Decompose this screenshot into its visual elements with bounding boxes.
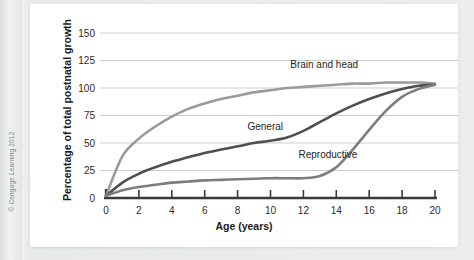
x-axis-tick-label: 18 (397, 205, 409, 216)
y-axis-tick-label: 125 (78, 55, 95, 66)
y-axis-tick-label: 100 (78, 83, 95, 94)
y-axis-tick-label: 150 (78, 28, 95, 39)
chart-container: Percentage of total postnatal growth Age… (30, 4, 458, 247)
y-axis-tick-label: 75 (84, 110, 96, 121)
x-axis-tick-label: 12 (298, 205, 310, 216)
x-axis-tick-label: 20 (429, 205, 441, 216)
x-axis-tick-label: 16 (364, 205, 376, 216)
series-label-brain-and-head: Brain and head (290, 59, 358, 70)
chart-plot: 025507510012515002468101214161820Brain a… (30, 4, 458, 247)
y-axis-tick-label: 0 (89, 193, 95, 204)
x-axis-tick-label: 0 (103, 205, 109, 216)
x-axis-tick-label: 8 (235, 205, 241, 216)
series-label-general: General (247, 121, 283, 132)
y-axis-tick-label: 50 (84, 138, 96, 149)
x-axis-tick-label: 14 (331, 205, 343, 216)
x-axis-tick-label: 6 (202, 205, 208, 216)
copyright-credit: © Cengage Learning 2012 (8, 124, 15, 220)
x-axis-tick-label: 2 (136, 205, 142, 216)
series-label-reproductive: Reproductive (298, 149, 357, 160)
x-axis-tick-label: 10 (265, 205, 277, 216)
y-axis-tick-label: 25 (84, 165, 96, 176)
x-axis-tick-label: 4 (169, 205, 175, 216)
